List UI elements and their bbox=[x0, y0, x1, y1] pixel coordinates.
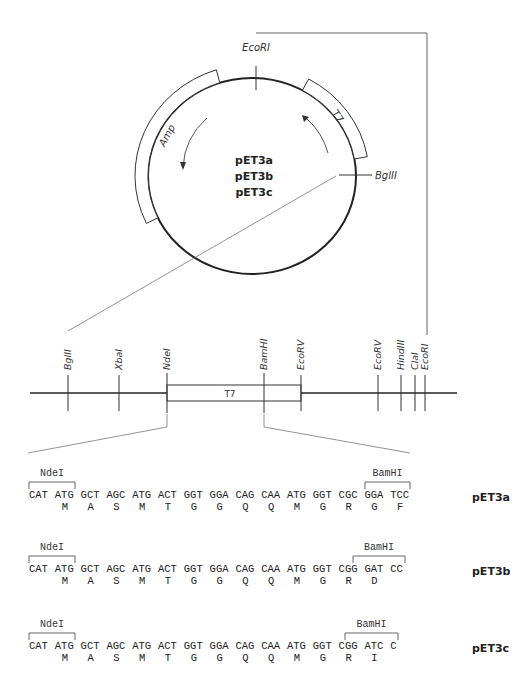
ndei-site-label: NdeI bbox=[40, 619, 64, 630]
amino-acid: M bbox=[294, 575, 300, 587]
codon: GGT bbox=[184, 640, 203, 652]
plasmid-name-c: pET3c bbox=[235, 186, 272, 199]
t7-arrowhead-icon bbox=[302, 115, 309, 122]
codon: GGT bbox=[184, 563, 203, 575]
amino-acid: S bbox=[113, 501, 119, 513]
plasmid-name-b: pET3b bbox=[235, 170, 274, 183]
linear-site-label: XbaI bbox=[113, 349, 124, 371]
bamhi-site-label: BamHI bbox=[364, 542, 394, 553]
ndei-site-label: NdeI bbox=[40, 542, 64, 553]
circular-plasmid-map: Amp T7 EcoRI BglII pET3a pET3b pET3c bbox=[135, 42, 397, 274]
sequence-block-pET3b: NdeIBamHICATATGMGCTAAGCSATGMACTTGGTGGGAG… bbox=[29, 542, 511, 587]
codon: ATC bbox=[364, 640, 383, 652]
bamhi-bracket bbox=[353, 556, 405, 563]
amino-acid: A bbox=[87, 652, 94, 664]
amino-acid: G bbox=[320, 575, 326, 587]
codon: TCC bbox=[390, 489, 409, 501]
ecori-site-label: EcoRI bbox=[242, 42, 270, 53]
linear-site-label: BamHI bbox=[258, 338, 269, 370]
amino-acid: G bbox=[216, 501, 222, 513]
amino-acid: I bbox=[371, 652, 377, 664]
codon: GGT bbox=[313, 640, 332, 652]
ecori-connector-bracket bbox=[256, 33, 427, 335]
expansion-line-bamhi bbox=[264, 414, 410, 453]
codon: AGC bbox=[106, 563, 125, 575]
codon: CAA bbox=[261, 563, 281, 575]
linear-site: NdeI bbox=[161, 348, 172, 413]
codon: ATG bbox=[132, 563, 151, 575]
amino-acid: M bbox=[62, 575, 68, 587]
amino-acid: G bbox=[191, 575, 197, 587]
amp-arrowhead-icon bbox=[180, 162, 186, 170]
linear-site: XbaI bbox=[113, 349, 124, 411]
amino-acid: Q bbox=[242, 575, 248, 587]
linear-site-label: EcoRV bbox=[295, 338, 306, 370]
expansion-line-circle-to-linear bbox=[68, 176, 336, 331]
amino-acid: Q bbox=[268, 575, 274, 587]
linear-site-label: HindIII bbox=[395, 340, 406, 370]
amino-acid: S bbox=[113, 652, 119, 664]
codon: CAG bbox=[235, 489, 254, 501]
amp-direction-arrow bbox=[183, 118, 207, 167]
amino-acid: G bbox=[191, 501, 197, 513]
linear-map: T7 BglIIXbaINdeIBamHIEcoRVEcoRVHindIIICl… bbox=[30, 338, 457, 413]
codon: CAG bbox=[235, 640, 254, 652]
amino-acid: T bbox=[165, 501, 171, 513]
linear-site: BglII bbox=[62, 349, 73, 411]
amino-acid: M bbox=[62, 652, 68, 664]
ndei-bracket bbox=[29, 482, 75, 489]
codon: GGT bbox=[184, 489, 203, 501]
codon: CAT bbox=[29, 640, 48, 652]
ndei-bracket bbox=[29, 633, 75, 640]
ndei-bracket bbox=[29, 556, 75, 563]
sequence-blocks: NdeIBamHICATATGMGCTAAGCSATGMACTTGGTGGGAG… bbox=[29, 468, 511, 664]
amino-acid: M bbox=[139, 501, 145, 513]
amino-acid: Q bbox=[242, 501, 248, 513]
sequence-block-pET3c: NdeIBamHICATATGMGCTAAGCSATGMACTTGGTGGGAG… bbox=[29, 619, 509, 664]
sequence-block-pET3a: NdeIBamHICATATGMGCTAAGCSATGMACTTGGTGGGAG… bbox=[29, 468, 510, 513]
amino-acid: M bbox=[294, 501, 300, 513]
amino-acid: S bbox=[113, 575, 119, 587]
linear-site-label: BglII bbox=[62, 349, 73, 370]
codon: ACT bbox=[158, 489, 177, 501]
codon: GGA bbox=[210, 640, 230, 652]
expansion-line-ndei bbox=[28, 414, 167, 453]
amino-acid: A bbox=[87, 501, 94, 513]
codon: CGC bbox=[339, 489, 358, 501]
codon: ATG bbox=[287, 563, 306, 575]
codon: GCT bbox=[81, 640, 100, 652]
linear-site: EcoRI bbox=[419, 343, 430, 411]
codon: ATG bbox=[55, 640, 74, 652]
codon: CAA bbox=[261, 489, 281, 501]
vector-name-label: pET3a bbox=[472, 491, 510, 504]
codon: GGA bbox=[364, 489, 384, 501]
t7-direction-arrow bbox=[306, 118, 328, 153]
codon: CAT bbox=[29, 489, 48, 501]
ndei-site-label: NdeI bbox=[40, 468, 64, 479]
vector-name-label: pET3c bbox=[472, 642, 509, 655]
codon: AGC bbox=[106, 489, 125, 501]
linear-site: HindIII bbox=[395, 340, 406, 411]
amino-acid: D bbox=[371, 575, 377, 587]
codon: GAT bbox=[364, 563, 383, 575]
amino-acid: G bbox=[371, 501, 377, 513]
codon: AGC bbox=[106, 640, 125, 652]
codon: ATG bbox=[287, 640, 306, 652]
amino-acid: F bbox=[397, 501, 403, 513]
t7-linear-label: T7 bbox=[223, 389, 235, 399]
codon: ACT bbox=[158, 563, 177, 575]
amino-acid: G bbox=[191, 652, 197, 664]
amino-acid: G bbox=[216, 652, 222, 664]
codon: CAT bbox=[29, 563, 48, 575]
amino-acid: R bbox=[345, 652, 352, 664]
linear-site: EcoRV bbox=[372, 338, 383, 411]
amino-acid: A bbox=[87, 575, 94, 587]
codon: GGT bbox=[313, 489, 332, 501]
codon: GCT bbox=[81, 489, 100, 501]
amino-acid: M bbox=[294, 652, 300, 664]
amp-gene-box bbox=[135, 70, 220, 224]
amino-acid: Q bbox=[268, 501, 274, 513]
amino-acid: G bbox=[320, 501, 326, 513]
vector-name-label: pET3b bbox=[472, 565, 511, 578]
bamhi-bracket bbox=[345, 633, 398, 640]
